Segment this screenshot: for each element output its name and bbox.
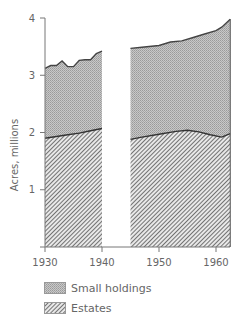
y-tick-label: 3 (29, 70, 35, 81)
x-axis-ticks: 1930194019501960 (32, 247, 228, 268)
legend-label: Estates (71, 302, 112, 315)
legend: Small holdings Estates (44, 280, 152, 320)
hatch-swatch-icon (44, 302, 66, 314)
y-axis-ticks: 1234 (29, 13, 45, 196)
plot-area (45, 19, 230, 247)
stacked-area-chart: 1234 1930194019501960 Acres, millions (0, 0, 240, 280)
small-holdings-area (131, 19, 231, 139)
x-tick-label: 1950 (146, 257, 171, 268)
x-tick-label: 1930 (32, 257, 57, 268)
x-tick-label: 1960 (203, 257, 228, 268)
x-tick-label: 1940 (89, 257, 114, 268)
y-tick-label: 1 (29, 184, 35, 195)
legend-item-small-holdings: Small holdings (44, 280, 152, 296)
stipple-swatch-icon (44, 282, 66, 294)
legend-label: Small holdings (71, 282, 152, 295)
y-axis-title: Acres, millions (9, 119, 20, 191)
estates-area (131, 130, 231, 247)
small-holdings-area (45, 51, 102, 138)
estates-area (45, 128, 102, 247)
y-tick-label: 2 (29, 127, 35, 138)
y-tick-label: 4 (29, 13, 35, 24)
legend-item-estates: Estates (44, 300, 152, 316)
